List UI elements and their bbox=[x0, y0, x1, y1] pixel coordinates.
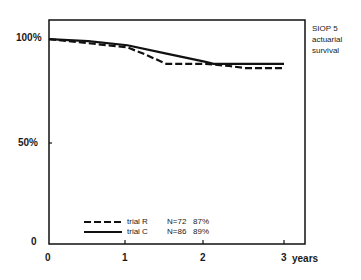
legend-trial-c-pct: 89% bbox=[193, 227, 209, 236]
legend-trial-c-n: N=86 bbox=[167, 227, 186, 236]
series-layer bbox=[49, 39, 284, 68]
y-tick-50: 50% bbox=[18, 137, 38, 148]
side-title-line2: actuarial bbox=[312, 34, 342, 45]
legend-trial-r-pct: 87% bbox=[193, 217, 209, 226]
side-title-line1: SIOP 5 bbox=[312, 23, 342, 34]
chart-side-title: SIOP 5 actuarial survival bbox=[312, 23, 342, 56]
x-tick-2: 2 bbox=[200, 252, 206, 263]
legend-trial-r-n: N=72 bbox=[167, 217, 186, 226]
x-tick-0: 0 bbox=[45, 252, 51, 263]
legend-trial-r-label: trial R bbox=[127, 217, 148, 226]
x-tick-3: 3 bbox=[281, 252, 287, 263]
side-title-line3: survival bbox=[312, 45, 342, 56]
x-axis-unit: years bbox=[292, 253, 318, 264]
legend-trial-c-label: trial C bbox=[127, 227, 148, 236]
y-tick-0: 0 bbox=[31, 236, 37, 247]
x-tick-1: 1 bbox=[122, 252, 128, 263]
plot-frame bbox=[49, 20, 305, 244]
y-tick-100: 100% bbox=[16, 32, 42, 43]
survival-chart bbox=[0, 0, 361, 280]
